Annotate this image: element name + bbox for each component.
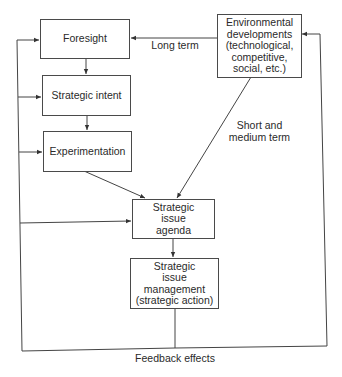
experimentation-to-agenda-arrow (84, 171, 145, 198)
strategic-issue-agenda-label: Strategic issue agenda (153, 202, 194, 237)
environmental-developments-box: Environmental developments (technologica… (217, 14, 302, 78)
feedback-effects-label: Feedback effects (125, 353, 225, 365)
strategic-intent-label: Strategic intent (51, 90, 121, 102)
foresight-label: Foresight (63, 33, 107, 45)
feedback-right-line (320, 34, 327, 346)
long-term-label: Long term (140, 40, 210, 52)
strategic-intent-box: Strategic intent (42, 75, 131, 116)
strategic-issue-management-label: Strategic issue management (strategic ac… (136, 261, 214, 307)
feedback-to-agenda-arrow (20, 221, 131, 223)
short-medium-term-label: Short and medium term (222, 120, 297, 143)
environmental-developments-label: Environmental developments (technologica… (226, 17, 294, 75)
foresight-box: Foresight (40, 19, 130, 59)
strategic-issue-agenda-box: Strategic issue agenda (132, 199, 215, 239)
strategic-issue-management-box: Strategic issue management (strategic ac… (130, 258, 219, 309)
experimentation-box: Experimentation (43, 131, 132, 172)
experimentation-label: Experimentation (50, 146, 126, 158)
feedback-left-line (17, 40, 22, 351)
